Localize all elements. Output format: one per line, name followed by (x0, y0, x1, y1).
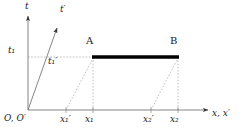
diagram-canvas (0, 0, 246, 134)
tick-label-x2-prime: x₂′ (143, 115, 154, 124)
point-label-B: B (170, 36, 177, 46)
dashed-line-x1prime-to-A (66, 58, 93, 110)
t-axis-label: t (25, 2, 29, 11)
t-prime-axis (28, 28, 57, 110)
tick-label-t1: t₁ (8, 46, 15, 55)
point-label-A: A (86, 36, 93, 46)
t-prime-axis-label: t′ (60, 5, 66, 14)
tick-label-x1-prime: x₁′ (60, 115, 71, 124)
dashed-line-x2prime-to-B (151, 58, 178, 110)
tick-label-t1-prime: t₁′ (48, 57, 57, 66)
origin-label: O, O′ (4, 114, 26, 123)
x-axis-label: x, x′ (212, 109, 230, 118)
tick-label-x2: x₂ (170, 115, 179, 124)
minkowski-diagram: t t′ t₁ t₁′ A B O, O′ x₁′ x₁ x₂′ x₂ x, x… (0, 0, 246, 134)
tick-label-x1: x₁ (85, 115, 94, 124)
